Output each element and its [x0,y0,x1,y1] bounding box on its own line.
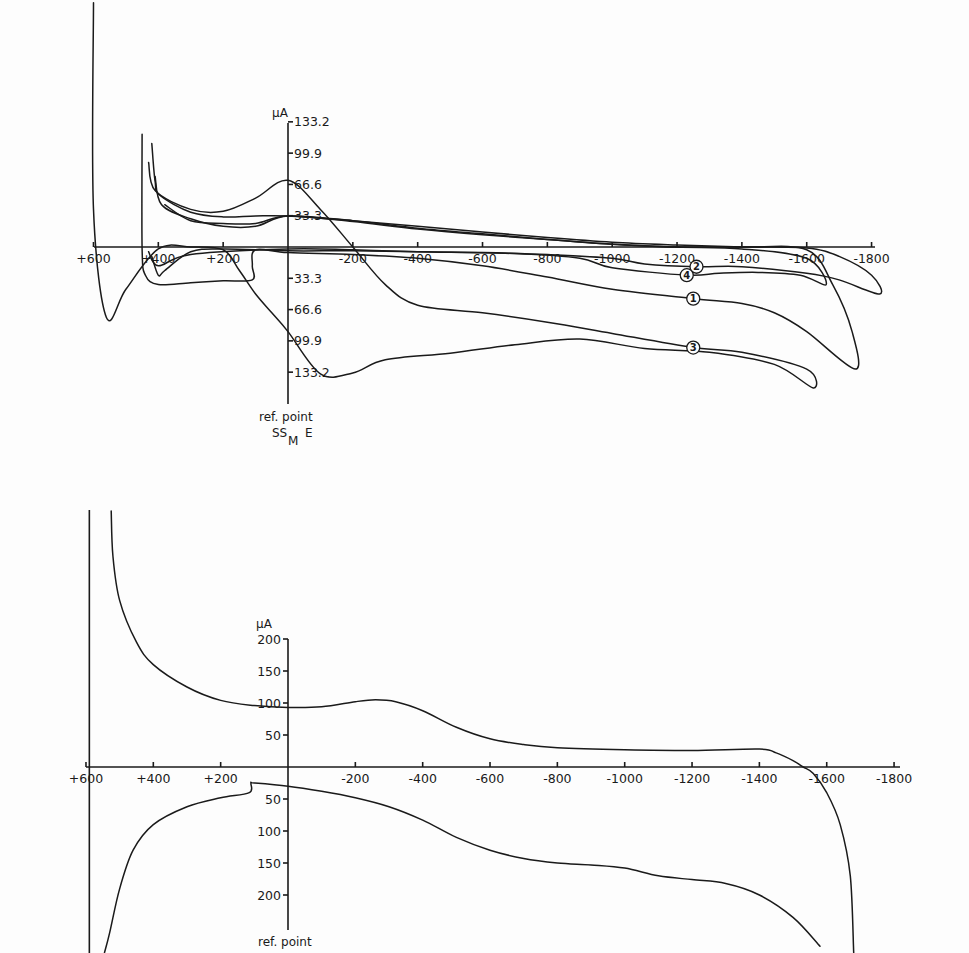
y-tick-label: 150 [257,664,281,679]
y-tick-label: 100 [257,696,281,711]
top-chart-curves [93,3,882,388]
x-tick-label: -1000 [607,771,643,786]
curve-3 [93,3,817,388]
bottom-ref-point-label: ref. point [258,935,312,949]
x-tick-label: +600 [76,251,110,266]
x-tick-label: -600 [476,771,504,786]
x-tick-label: -400 [408,771,436,786]
curve-cathodic-sweep-upper-branch- [111,511,854,953]
bottom-chart-axes: +600+400+200-200-400-600-800-1000-1200-1… [69,510,912,953]
voltammogram-figure: +600+400+200-200-400-600-800-1000-1200-1… [0,0,969,953]
ref-electrode-subscript: M [288,434,298,448]
x-tick-label: +400 [136,771,170,786]
y-tick-label: 50 [265,792,281,807]
y-tick-label: 33.3 [294,271,322,286]
x-tick-label: -1200 [674,771,710,786]
bottom-chart-curves [105,511,854,953]
x-tick-label: -800 [533,251,561,266]
bottom-voltammogram-chart: +600+400+200-200-400-600-800-1000-1200-1… [69,510,912,953]
svg-text:4: 4 [683,270,690,281]
curve-marker-1: 1 [687,292,700,305]
y-tick-label: 133.2 [294,365,330,380]
bottom-y-axis-unit: µA [256,617,273,631]
top-voltammogram-chart: +600+400+200-200-400-600-800-1000-1200-1… [76,3,889,448]
x-tick-label: -1200 [659,251,695,266]
x-tick-label: -1400 [724,251,760,266]
svg-text:1: 1 [690,293,697,304]
ref-electrode-suffix: E [305,426,313,440]
y-tick-label: 200 [257,888,281,903]
top-y-axis-unit: µA [272,106,289,120]
ref-electrode-main: SS [272,426,287,440]
y-tick-label: 200 [257,632,281,647]
svg-text:2: 2 [693,261,700,272]
top-chart-curve-markers: 1234 [680,260,703,354]
x-tick-label: -1800 [876,771,912,786]
y-tick-label: 133.2 [294,114,330,129]
x-tick-label: -1800 [853,251,889,266]
top-ref-point-label: ref. point [259,410,313,424]
y-tick-label: 100 [257,824,281,839]
curve-marker-3: 3 [687,341,700,354]
curve-marker-4: 4 [680,269,693,282]
y-tick-label: 66.6 [294,177,322,192]
x-tick-label: -1400 [741,771,777,786]
y-tick-label: 66.6 [294,302,322,317]
y-tick-label: 50 [265,728,281,743]
x-tick-label: +600 [69,771,103,786]
svg-text:3: 3 [690,342,697,353]
top-chart-axes: +600+400+200-200-400-600-800-1000-1200-1… [76,114,889,404]
x-tick-label: -800 [543,771,571,786]
reference-electrode-label: SS M E [272,426,313,448]
curve-anodic-sweep-lower-branch- [105,782,821,952]
x-tick-label: -200 [341,771,369,786]
y-tick-label: 99.9 [294,146,322,161]
y-tick-label: 150 [257,856,281,871]
x-tick-label: +200 [203,771,237,786]
x-tick-label: +400 [141,251,175,266]
